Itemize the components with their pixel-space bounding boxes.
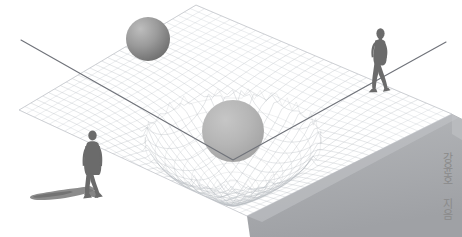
secondary-sphere (126, 17, 170, 61)
massive-body-sphere (202, 100, 264, 162)
book-cover: 강윤호 지음 (0, 0, 462, 237)
spacetime-illustration (0, 0, 462, 237)
author-credit: 강윤호 지음 (432, 152, 454, 220)
